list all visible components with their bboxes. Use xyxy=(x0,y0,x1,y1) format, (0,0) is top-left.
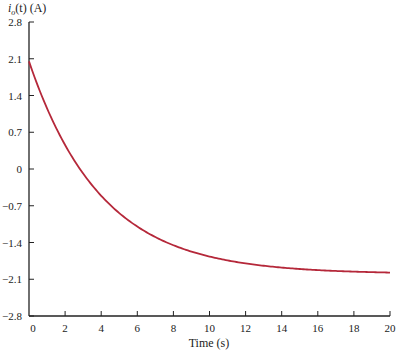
y-tick-label: −0.7 xyxy=(2,200,22,212)
y-tick-label: 0.7 xyxy=(8,126,22,138)
x-tick-label: 8 xyxy=(171,322,177,334)
ticks: 2.82.11.40.70−0.7−1.4−2.1−2.802468101214… xyxy=(2,16,396,334)
y-tick-label: −2.1 xyxy=(2,273,22,285)
x-tick-label: 14 xyxy=(276,322,288,334)
y-tick-label: −1.4 xyxy=(2,237,22,249)
y-tick-label: 1.4 xyxy=(8,90,22,102)
y-tick-label: 2.8 xyxy=(8,16,22,28)
x-tick-label: 18 xyxy=(348,322,360,334)
series-line-io xyxy=(29,61,390,272)
y-tick-label: −2.8 xyxy=(2,310,22,322)
series xyxy=(29,61,390,272)
x-tick-label: 0 xyxy=(30,322,36,334)
y-axis-title: io(t) (A) xyxy=(8,1,46,17)
x-tick-label: 16 xyxy=(312,322,324,334)
x-tick-label: 10 xyxy=(204,322,216,334)
x-tick-label: 12 xyxy=(240,322,251,334)
y-tick-label: 2.1 xyxy=(8,53,22,65)
x-tick-label: 20 xyxy=(385,322,397,334)
x-axis-title: Time (s) xyxy=(189,336,230,350)
x-tick-label: 6 xyxy=(135,322,141,334)
y-tick-label: 0 xyxy=(17,163,23,175)
axes xyxy=(29,22,390,316)
chart: 2.82.11.40.70−0.7−1.4−2.1−2.802468101214… xyxy=(0,0,397,355)
x-tick-label: 2 xyxy=(62,322,68,334)
x-tick-label: 4 xyxy=(98,322,104,334)
